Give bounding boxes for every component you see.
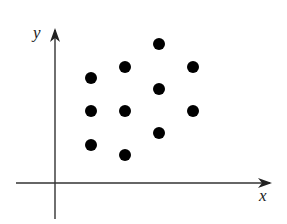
- scatter-diagram: y x: [0, 0, 287, 224]
- scatter-plot-canvas: [0, 0, 287, 224]
- data-point: [153, 38, 165, 50]
- data-point: [187, 61, 199, 73]
- data-point: [85, 72, 97, 84]
- data-point: [85, 139, 97, 151]
- x-axis-label: x: [259, 187, 267, 204]
- data-point: [187, 105, 199, 117]
- y-axis-label: y: [33, 24, 41, 41]
- data-point: [153, 127, 165, 139]
- data-point: [119, 149, 131, 161]
- data-point: [153, 83, 165, 95]
- data-point: [119, 105, 131, 117]
- data-points: [85, 38, 199, 161]
- data-point: [85, 105, 97, 117]
- data-point: [119, 61, 131, 73]
